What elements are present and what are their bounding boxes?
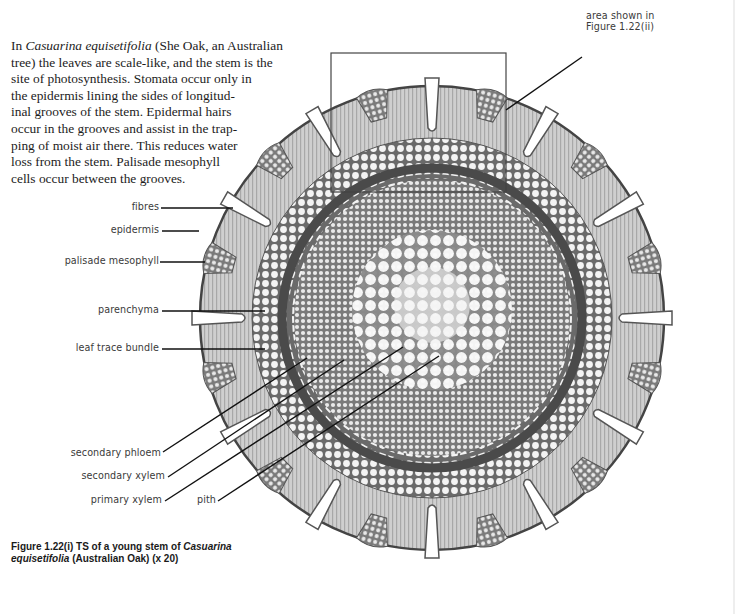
label-pith: pith [197, 494, 216, 505]
label-epidermis: epidermis [111, 224, 159, 235]
caption-figure-number: Figure 1.22(i) [11, 541, 73, 552]
caption-text-post: (Australian Oak) (x 20) [69, 553, 178, 564]
label-secondary-phloem: secondary phloem [71, 447, 161, 458]
caption-text: TS of a young stem of [73, 541, 183, 552]
label-area-shown-line2: Figure 1.22(ii) [586, 21, 654, 32]
caption-species: equisetifolia [11, 553, 69, 564]
scan-edge [733, 0, 735, 614]
label-palisade-mesophyll: palisade mesophyll [65, 255, 159, 266]
label-primary-xylem: primary xylem [91, 494, 162, 505]
label-leaf-trace-bundle: leaf trace bundle [76, 342, 159, 353]
label-area-shown: area shown in Figure 1.22(ii) [586, 10, 654, 32]
label-area-shown-line1: area shown in [586, 10, 654, 21]
textbook-page: In Casuarina equisetifolia (She Oak, an … [0, 0, 737, 614]
caption-genus: Casuarina [183, 541, 231, 552]
figure-caption: Figure 1.22(i) TS of a young stem of Cas… [11, 541, 311, 565]
label-fibres: fibres [132, 201, 159, 212]
leader-area-shown [506, 57, 582, 110]
label-secondary-xylem: secondary xylem [81, 470, 165, 481]
label-parenchyma: parenchyma [98, 304, 159, 315]
